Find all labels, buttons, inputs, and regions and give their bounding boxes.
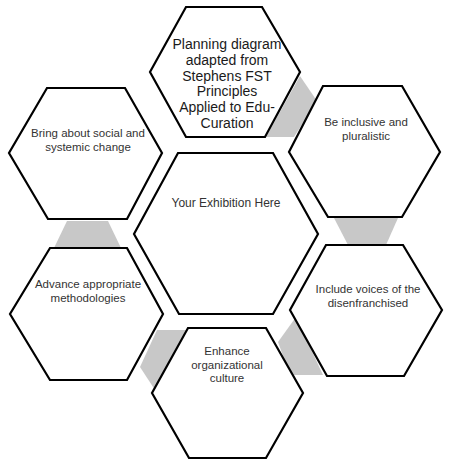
connector-left-top-to-left-bottom	[54, 221, 121, 248]
center-label: Your Exhibition Here	[166, 196, 286, 210]
node-label-right-top: Be inclusive and pluralistic	[318, 116, 414, 143]
hexagon-right-top	[289, 86, 440, 217]
node-label-left-top: Bring about social and systemic change	[30, 127, 146, 154]
node-label-right-bottom: Include voices of the disenfranchised	[312, 283, 424, 310]
node-label-left-bottom: Advance appropriate methodologies	[30, 278, 146, 305]
connector-right-to-bottom-right	[334, 218, 398, 245]
hexagon-left-bottom	[10, 248, 163, 380]
hexagon-center	[134, 153, 318, 314]
node-label-bottom: Enhance organizational culture	[186, 345, 268, 386]
node-label-top: Planning diagram adapted from Stephens F…	[172, 37, 282, 132]
